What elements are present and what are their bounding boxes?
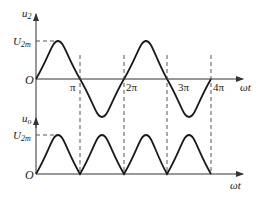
upper-y-label: u2 [22,7,32,21]
period-guides [80,55,211,174]
lower-y-label: uo [22,112,32,126]
upper-plot: u2 U2m O π 2π 3π 4π ωt [13,7,252,128]
lower-x-label: ωt [230,179,242,191]
upper-peak-label: U2m [13,35,31,49]
tick-pi: π [70,81,76,93]
upper-x-label: ωt [240,81,252,93]
tick-4pi: 4π [213,81,225,93]
lower-origin-label: O [25,168,34,182]
rectifier-waveform-diagram: u2 U2m O π 2π 3π 4π ωt uo U2m O ωt [0,0,259,199]
lower-plot: uo U2m O ωt [13,112,243,191]
upper-origin-label: O [25,73,34,87]
lower-rectified-curve [36,135,211,174]
tick-2pi: 2π [126,81,138,93]
tick-3pi: 3π [178,81,190,93]
lower-peak-label: U2m [13,129,31,143]
